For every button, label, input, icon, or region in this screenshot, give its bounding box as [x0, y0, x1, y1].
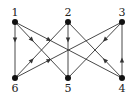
node-label-6: 6	[9, 83, 21, 94]
node-label-4: 4	[116, 83, 128, 94]
node-label-3: 3	[116, 7, 128, 18]
arrowhead-icon	[13, 37, 17, 42]
node-5	[65, 75, 71, 81]
node-3	[119, 19, 125, 25]
node-label-5: 5	[62, 83, 74, 94]
node-label-1: 1	[9, 7, 21, 18]
node-4	[119, 75, 125, 81]
arrowhead-icon	[66, 37, 70, 42]
node-6	[12, 75, 18, 81]
node-1	[12, 19, 18, 25]
node-2	[65, 19, 71, 25]
node-label-2: 2	[62, 7, 74, 18]
arrowhead-icon	[120, 58, 124, 63]
